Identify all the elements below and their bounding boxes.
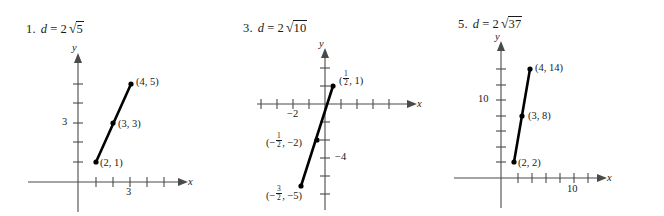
tail: , −5)	[282, 190, 302, 201]
data-point	[527, 66, 532, 71]
data-point	[330, 83, 335, 88]
figure-1-point-label-3: (4, 5)	[136, 76, 159, 87]
fraction: 12	[276, 132, 282, 148]
tail: , 1)	[349, 75, 363, 86]
figure-5-point-label-2: (3, 8)	[528, 110, 551, 121]
y-axis-arrowhead-icon	[74, 53, 82, 63]
denominator: 2	[343, 79, 349, 87]
data-point	[128, 81, 133, 86]
figure-1-point-label-1: (2, 1)	[100, 157, 123, 168]
figure-5-x-axis-label: x	[607, 172, 612, 183]
figure-1: 1.d=2√5 x y 3 3 (2, 1) (3, 3) (4, 5)	[0, 0, 221, 216]
y-axis-arrowhead-icon	[321, 48, 329, 58]
figure-1-point-label-2: (3, 3)	[118, 118, 141, 129]
figure-3-point-label-2: (−12, −2)	[266, 132, 302, 148]
y-axis-arrowhead-icon	[497, 41, 505, 51]
sign: −	[270, 137, 276, 148]
data-point	[110, 120, 115, 125]
data-point	[314, 137, 319, 142]
tail: , −2)	[282, 137, 302, 148]
data-point	[93, 159, 98, 164]
figure-3-y-tick-label: −4	[335, 151, 346, 162]
paren-open: (	[339, 75, 343, 86]
data-point	[519, 113, 524, 118]
figure-3-plot	[221, 0, 442, 216]
data-point	[511, 159, 516, 164]
segment-line	[301, 86, 333, 186]
fraction: 12	[343, 70, 349, 86]
figure-3: 3.d=2√10 x y −2 −4 (12, 1)	[221, 0, 442, 216]
figure-3-y-axis-label: y	[319, 38, 324, 49]
figure-3-x-tick-label: −2	[287, 108, 298, 119]
fraction: 32	[276, 185, 282, 201]
figure-5-plot	[442, 0, 664, 216]
figure-5-y-axis-label: y	[495, 31, 500, 42]
figure-5: 5.d=2√37 x y 10 10 (2, 2) (3, 8) (4, 14)	[442, 0, 664, 216]
denominator: 2	[276, 194, 282, 202]
figure-1-y-axis-label: y	[72, 42, 77, 53]
figure-3-point-label-3: (−32, −5)	[266, 185, 302, 201]
figure-5-y-tick-label: 10	[478, 93, 489, 104]
figure-5-point-label-1: (2, 2)	[518, 157, 541, 168]
figure-5-point-label-3: (4, 14)	[535, 62, 563, 73]
figure-3-point-label-1: (12, 1)	[339, 70, 363, 86]
figure-3-x-axis-label: x	[417, 98, 422, 109]
denominator: 2	[276, 141, 282, 149]
figure-1-x-tick-label: 3	[126, 186, 131, 197]
x-axis-arrowhead-icon	[407, 100, 417, 108]
figure-5-x-tick-label: 10	[567, 183, 578, 194]
x-axis-arrowhead-icon	[178, 178, 188, 186]
figure-1-x-axis-label: x	[188, 176, 193, 187]
sign: −	[270, 190, 276, 201]
x-axis-arrowhead-icon	[597, 174, 607, 182]
figure-1-y-tick-label: 3	[62, 116, 67, 127]
